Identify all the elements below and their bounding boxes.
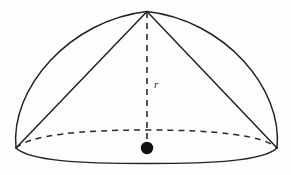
center-dot — [141, 142, 153, 154]
figure-canvas — [0, 0, 291, 175]
radius-label: r — [154, 79, 158, 90]
geometry-figure: r — [0, 0, 291, 175]
